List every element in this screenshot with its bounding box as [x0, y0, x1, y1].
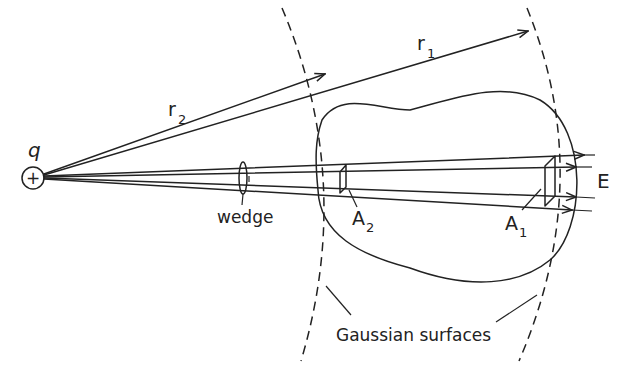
a1-leader [522, 189, 541, 210]
gaussian-surfaces-label: Gaussian surfaces [336, 325, 491, 345]
field-line-3-ext [576, 197, 595, 198]
surfaces-leader-left [326, 286, 351, 315]
wedge-cross-section [239, 162, 247, 194]
r2-label: r [168, 98, 176, 120]
a2-label: A [352, 207, 365, 229]
r1-vector [44, 31, 528, 175]
wedge-label: wedge [217, 207, 273, 227]
surfaces-leader-right [496, 295, 537, 322]
r1-label: r [417, 32, 425, 54]
field-label: E [597, 169, 610, 193]
charge-sign: + [26, 168, 40, 188]
closed-surface-blob [316, 91, 577, 282]
wedge-leader [242, 194, 243, 205]
r1-subscript: 1 [427, 46, 435, 61]
field-line-2 [44, 167, 576, 177]
r2-subscript: 2 [178, 112, 186, 127]
gaussian-surface-outer [519, 8, 560, 361]
area-a1-prism [545, 156, 555, 206]
charge-label: q [28, 138, 41, 162]
a1-label: A [505, 212, 518, 234]
gauss-law-diagram: + q r 2 r 1 wedge A 2 A 1 E Gaussian sur… [0, 0, 630, 381]
field-line-1 [44, 155, 584, 176]
a2-subscript: 2 [366, 220, 374, 235]
a1-subscript: 1 [519, 225, 527, 240]
a2-leader [349, 190, 357, 207]
